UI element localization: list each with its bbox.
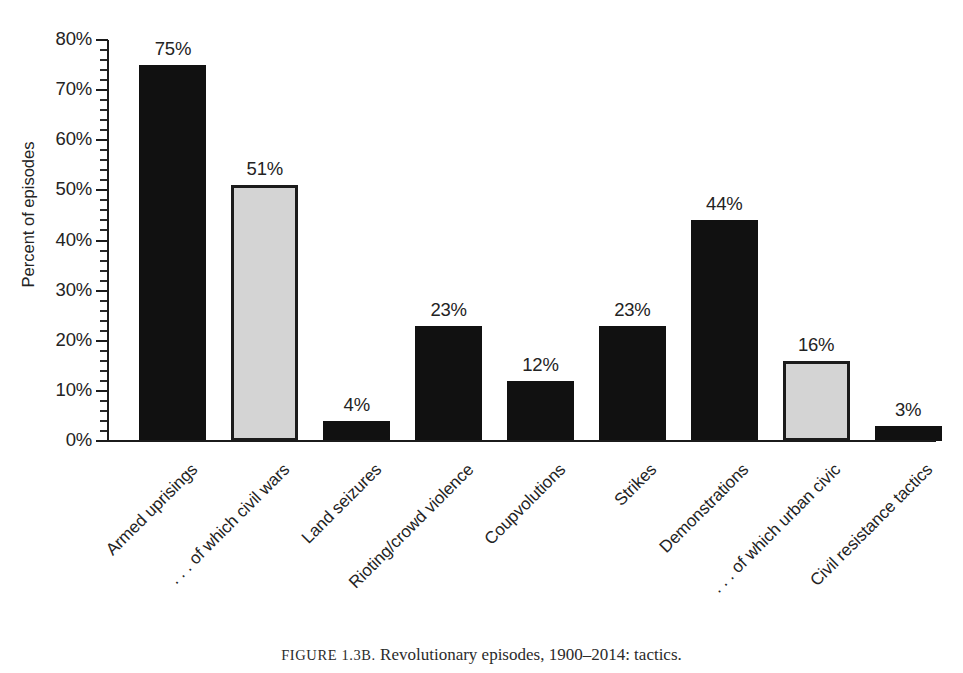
category-label: . . . of which urban civic [548, 460, 845, 673]
bar-value-label: 4% [293, 394, 420, 416]
y-axis-tick-label: 10% [56, 379, 92, 401]
category-label: Coupvolutions [273, 460, 570, 673]
y-axis-tick-label: 40% [56, 229, 92, 251]
figure-caption-prefix: FIGURE 1.3B. [281, 647, 376, 663]
y-axis-tick-label: 60% [56, 128, 92, 150]
bar-value-label: 12% [477, 354, 604, 376]
category-label: Rioting/crowd violence [181, 460, 478, 673]
bar [875, 426, 942, 441]
figure-root: 75%51%4%23%12%23%44%16%3% 0%10%20%30%40%… [0, 0, 963, 673]
bar-value-label: 51% [201, 158, 328, 180]
y-axis-tick-label: 20% [56, 329, 92, 351]
figure-caption-text: Revolutionary episodes, 1900–2014: tacti… [376, 645, 682, 664]
figure-caption: FIGURE 1.3B. Revolutionary episodes, 190… [0, 645, 963, 665]
y-axis-tick-label: 80% [56, 28, 92, 50]
bar-value-label: 23% [385, 299, 512, 321]
bar [323, 421, 390, 441]
y-axis-line [107, 40, 109, 442]
category-label: . . . of which civil wars [0, 460, 294, 673]
bar [415, 326, 482, 441]
category-label: Land seizures [89, 460, 386, 673]
x-axis-line [107, 440, 936, 442]
y-axis-title: Percent of episodes [19, 115, 38, 315]
y-axis-tick-label: 0% [66, 429, 92, 451]
bar [507, 381, 574, 441]
category-label: Strikes [364, 460, 661, 673]
bar-value-label: 23% [569, 299, 696, 321]
category-label: Civil resistance tactics [640, 460, 937, 673]
bar-value-label: 75% [109, 38, 236, 60]
bar-value-label: 44% [661, 193, 788, 215]
bar [599, 326, 666, 441]
bar [691, 220, 758, 441]
bar [231, 185, 298, 441]
bar-value-label: 16% [753, 334, 880, 356]
y-axis-tick-label: 30% [56, 279, 92, 301]
bar [783, 361, 850, 441]
y-axis-tick-label: 50% [56, 178, 92, 200]
bar-value-label: 3% [845, 399, 963, 421]
y-axis-tick-label: 70% [56, 78, 92, 100]
plot-area: 75%51%4%23%12%23%44%16%3% [108, 40, 935, 441]
bar [139, 65, 206, 441]
category-label: Demonstrations [456, 460, 753, 673]
